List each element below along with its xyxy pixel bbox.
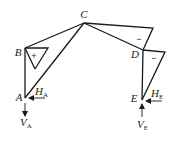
reaction-VE: VE: [137, 104, 148, 132]
label-HE: HE: [150, 87, 163, 101]
label-VA-sub: A: [27, 122, 32, 130]
label-VA: VA: [20, 116, 32, 130]
sign-plus-left: +: [31, 51, 36, 61]
label-HA-sub: A: [43, 91, 48, 99]
member-DE: [142, 50, 143, 100]
sign-minus-column: −: [151, 53, 156, 63]
reaction-HA: HA: [29, 85, 48, 99]
label-HA: HA: [34, 85, 48, 99]
node-label-E: E: [130, 92, 138, 104]
label-HE-sub: E: [159, 93, 163, 101]
node-label-D: D: [130, 48, 139, 60]
node-label-A: A: [15, 91, 23, 103]
reaction-HE: HE: [146, 87, 163, 101]
diagram-canvas: + − − C B A D E HA VA HE: [0, 0, 181, 142]
node-label-B: B: [15, 46, 22, 58]
label-VE-sub: E: [144, 124, 148, 132]
reaction-VA: VA: [20, 103, 32, 130]
label-VE: VE: [137, 118, 148, 132]
node-label-C: C: [80, 8, 88, 20]
sign-minus-beam: −: [136, 34, 141, 44]
frame-moment-diagram: + − − C B A D E HA VA HE: [0, 0, 181, 142]
member-BC: [25, 23, 84, 48]
